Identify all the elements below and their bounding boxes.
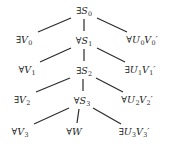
tree-edge-s0-v0 [38, 18, 71, 32]
tree-node-u1: ∃U1V1′ [125, 65, 156, 75]
tree-node-v1: ∀V1 [19, 65, 36, 75]
tree-edge-s0-u0 [97, 18, 127, 32]
variable-symbol: U [124, 126, 132, 137]
variable-subscript: 0 [28, 39, 32, 47]
variable-subscript-primed: 3 [143, 131, 147, 139]
prime-mark: ′ [156, 34, 158, 45]
variable-symbol: V [17, 126, 24, 137]
variable-symbol: S [80, 95, 87, 106]
variable-subscript: 1 [88, 40, 92, 48]
prime-mark: ′ [151, 94, 153, 105]
variable-subscript: 1 [32, 69, 36, 77]
variable-symbol: S [82, 35, 89, 46]
variable-subscript-primed: 1 [149, 69, 153, 77]
variable-subscript: 0 [88, 10, 92, 18]
tree-node-v0: ∃V0 [16, 35, 32, 45]
quantifier-tree-diagram: ∃S0∃V0∀S1∀U0V0′∀V1∃S2∃U1V1′∃V2∀S3∀U2V2′∀… [0, 0, 169, 150]
tree-edge-s3-u3 [93, 108, 121, 124]
tree-edge-s1-v1 [40, 48, 71, 62]
tree-edge-s1-u1 [97, 48, 125, 62]
variable-subscript: 3 [86, 100, 90, 108]
variable-symbol: U [127, 94, 135, 105]
tree-edge-s2-v2 [36, 78, 70, 92]
variable-symbol: W [72, 126, 82, 137]
variable-subscript-primed: 2 [147, 99, 151, 107]
variable-subscript: 1 [138, 69, 142, 77]
variable-subscript: 2 [26, 99, 30, 107]
tree-node-v3: ∀V3 [12, 127, 29, 137]
variable-symbol: U [132, 34, 140, 45]
variable-symbol: U [130, 64, 138, 75]
variable-symbol-primed: V [136, 126, 143, 137]
tree-node-v2: ∃V2 [14, 95, 30, 105]
variable-subscript: 2 [135, 99, 139, 107]
tree-node-w: ∀W [66, 127, 82, 137]
prime-mark: ′ [147, 126, 149, 137]
tree-node-s0: ∃S0 [76, 6, 92, 16]
prime-mark: ′ [153, 64, 155, 75]
tree-node-u2: ∀U2V2′ [121, 95, 153, 105]
variable-subscript: 3 [25, 131, 29, 139]
variable-symbol: S [81, 5, 88, 16]
variable-subscript: 0 [140, 39, 144, 47]
tree-edge-s3-v3 [34, 108, 69, 124]
tree-edge-s2-u2 [96, 78, 123, 92]
variable-subscript-primed: 0 [152, 39, 156, 47]
tree-node-u3: ∃U3V3′ [119, 127, 150, 137]
variable-symbol: S [81, 65, 88, 76]
tree-node-u0: ∀U0V0′ [126, 35, 158, 45]
variable-symbol-primed: V [142, 64, 149, 75]
variable-subscript: 2 [88, 70, 92, 78]
tree-node-s2: ∃S2 [76, 66, 92, 76]
variable-subscript: 3 [132, 131, 136, 139]
tree-edge-s3-w [77, 109, 79, 123]
tree-node-s3: ∀S3 [74, 96, 91, 106]
tree-node-s1: ∀S1 [76, 36, 93, 46]
variable-symbol: V [24, 64, 31, 75]
